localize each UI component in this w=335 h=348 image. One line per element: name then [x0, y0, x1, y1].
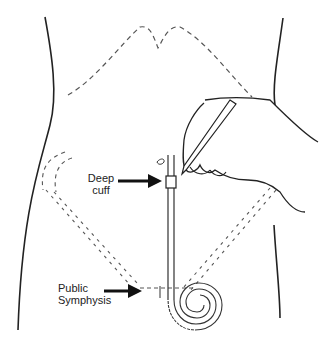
pubic-label-line2: Symphysis [58, 294, 111, 306]
deep-cuff [166, 176, 176, 188]
left-inguinal-dashed [46, 190, 137, 285]
pubic-label-line1: Public [58, 282, 111, 294]
hand-outline [183, 98, 318, 212]
rib-margin-dashed [68, 27, 252, 97]
diagram-canvas: Deep cuff Public Symphysis [0, 0, 335, 348]
fingers [190, 167, 226, 176]
deep-cuff-arrow [118, 174, 162, 188]
pubic-symphysis-label: Public Symphysis [58, 282, 111, 306]
catheter-coil [168, 283, 222, 330]
incision-mark [157, 159, 164, 164]
deep-cuff-label-line2: cuff [84, 184, 118, 196]
deep-cuff-label-line1: Deep [84, 172, 118, 184]
torso-left-outline [18, 17, 54, 330]
deep-cuff-label: Deep cuff [84, 172, 118, 196]
torso-right-outline [274, 18, 283, 318]
right-inguinal-dashed [183, 188, 276, 291]
pencil [182, 100, 236, 174]
abdomen-drawing [0, 0, 335, 348]
left-iliac-dashed [42, 152, 72, 192]
